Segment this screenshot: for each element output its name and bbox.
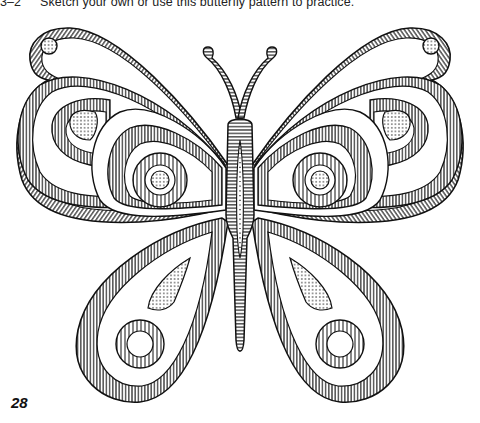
- butterfly-body: [226, 119, 254, 351]
- antennae: [203, 47, 276, 118]
- right-wings: [252, 28, 463, 402]
- butterfly-illustration: [0, 0, 480, 423]
- left-wings: [17, 28, 228, 402]
- page-number: 28: [11, 394, 28, 411]
